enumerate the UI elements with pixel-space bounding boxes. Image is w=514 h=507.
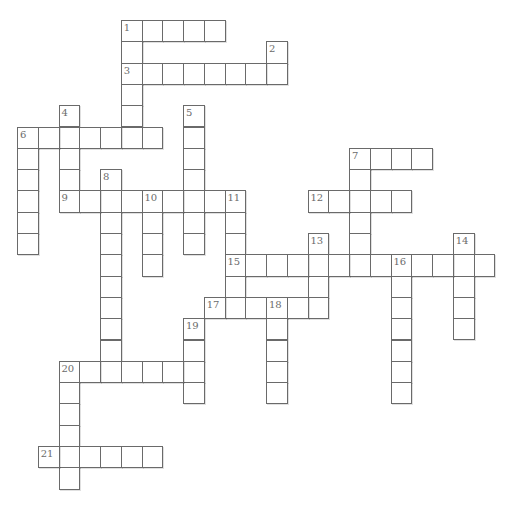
crossword-cell[interactable] — [79, 446, 101, 468]
crossword-cell[interactable]: 13 — [308, 233, 330, 255]
crossword-cell[interactable] — [142, 361, 164, 383]
crossword-cell[interactable]: 21 — [38, 446, 60, 468]
crossword-cell[interactable] — [225, 276, 247, 298]
crossword-cell[interactable] — [411, 254, 433, 276]
crossword-cell[interactable] — [391, 361, 413, 383]
crossword-cell[interactable] — [100, 276, 122, 298]
crossword-cell[interactable] — [17, 169, 39, 191]
crossword-cell[interactable] — [121, 361, 143, 383]
crossword-cell[interactable] — [17, 233, 39, 255]
crossword-cell[interactable] — [453, 297, 475, 319]
crossword-cell[interactable] — [121, 41, 143, 63]
crossword-cell[interactable] — [183, 340, 205, 362]
crossword-cell[interactable] — [349, 212, 371, 234]
crossword-cell[interactable] — [142, 20, 164, 42]
crossword-cell[interactable] — [349, 169, 371, 191]
crossword-cell[interactable]: 1 — [121, 20, 143, 42]
crossword-cell[interactable] — [59, 403, 81, 425]
crossword-cell[interactable] — [349, 254, 371, 276]
crossword-cell[interactable]: 19 — [183, 318, 205, 340]
crossword-cell[interactable] — [17, 212, 39, 234]
crossword-cell[interactable] — [266, 318, 288, 340]
crossword-cell[interactable] — [411, 148, 433, 170]
crossword-cell[interactable] — [121, 190, 143, 212]
crossword-cell[interactable] — [100, 446, 122, 468]
crossword-cell[interactable] — [183, 190, 205, 212]
crossword-cell[interactable] — [391, 318, 413, 340]
crossword-cell[interactable] — [17, 148, 39, 170]
crossword-cell[interactable] — [391, 190, 413, 212]
crossword-cell[interactable] — [432, 254, 454, 276]
crossword-cell[interactable] — [100, 340, 122, 362]
crossword-cell[interactable] — [162, 20, 184, 42]
crossword-cell[interactable] — [79, 361, 101, 383]
crossword-cell[interactable] — [183, 361, 205, 383]
crossword-cell[interactable]: 2 — [266, 41, 288, 63]
crossword-cell[interactable] — [79, 127, 101, 149]
crossword-cell[interactable] — [245, 254, 267, 276]
crossword-cell[interactable] — [121, 127, 143, 149]
crossword-cell[interactable] — [100, 233, 122, 255]
crossword-cell[interactable] — [100, 127, 122, 149]
crossword-cell[interactable] — [59, 425, 81, 447]
crossword-cell[interactable] — [183, 63, 205, 85]
crossword-cell[interactable] — [100, 254, 122, 276]
crossword-cell[interactable] — [225, 63, 247, 85]
crossword-cell[interactable] — [162, 361, 184, 383]
crossword-cell[interactable] — [162, 190, 184, 212]
crossword-cell[interactable]: 9 — [59, 190, 81, 212]
crossword-cell[interactable] — [204, 63, 226, 85]
crossword-cell[interactable]: 8 — [100, 169, 122, 191]
crossword-cell[interactable] — [391, 382, 413, 404]
crossword-cell[interactable] — [266, 254, 288, 276]
crossword-cell[interactable] — [142, 212, 164, 234]
crossword-cell[interactable] — [162, 63, 184, 85]
crossword-cell[interactable] — [17, 190, 39, 212]
crossword-cell[interactable] — [100, 297, 122, 319]
crossword-cell[interactable]: 7 — [349, 148, 371, 170]
crossword-cell[interactable]: 20 — [59, 361, 81, 383]
crossword-cell[interactable] — [370, 190, 392, 212]
crossword-cell[interactable] — [266, 63, 288, 85]
crossword-cell[interactable] — [59, 127, 81, 149]
crossword-cell[interactable] — [391, 148, 413, 170]
crossword-cell[interactable] — [142, 446, 164, 468]
crossword-cell[interactable] — [183, 212, 205, 234]
crossword-cell[interactable] — [453, 276, 475, 298]
crossword-cell[interactable] — [183, 382, 205, 404]
crossword-cell[interactable] — [308, 297, 330, 319]
crossword-cell[interactable] — [266, 382, 288, 404]
crossword-cell[interactable]: 11 — [225, 190, 247, 212]
crossword-cell[interactable] — [474, 254, 496, 276]
crossword-cell[interactable] — [349, 233, 371, 255]
crossword-cell[interactable] — [266, 361, 288, 383]
crossword-cell[interactable] — [100, 190, 122, 212]
crossword-cell[interactable] — [308, 254, 330, 276]
crossword-cell[interactable] — [59, 148, 81, 170]
crossword-cell[interactable]: 15 — [225, 254, 247, 276]
crossword-cell[interactable] — [183, 20, 205, 42]
crossword-cell[interactable]: 3 — [121, 63, 143, 85]
crossword-cell[interactable] — [225, 212, 247, 234]
crossword-cell[interactable] — [328, 190, 350, 212]
crossword-cell[interactable] — [328, 254, 350, 276]
crossword-cell[interactable] — [142, 63, 164, 85]
crossword-cell[interactable] — [142, 127, 164, 149]
crossword-cell[interactable] — [225, 233, 247, 255]
crossword-cell[interactable] — [59, 169, 81, 191]
crossword-cell[interactable]: 10 — [142, 190, 164, 212]
crossword-cell[interactable] — [121, 84, 143, 106]
crossword-cell[interactable] — [225, 297, 247, 319]
crossword-cell[interactable] — [391, 276, 413, 298]
crossword-cell[interactable] — [183, 148, 205, 170]
crossword-cell[interactable] — [121, 105, 143, 127]
crossword-cell[interactable] — [391, 340, 413, 362]
crossword-cell[interactable] — [59, 382, 81, 404]
crossword-cell[interactable] — [370, 254, 392, 276]
crossword-cell[interactable] — [142, 233, 164, 255]
crossword-cell[interactable]: 17 — [204, 297, 226, 319]
crossword-cell[interactable] — [59, 467, 81, 489]
crossword-cell[interactable] — [245, 297, 267, 319]
crossword-cell[interactable] — [59, 446, 81, 468]
crossword-cell[interactable] — [204, 190, 226, 212]
